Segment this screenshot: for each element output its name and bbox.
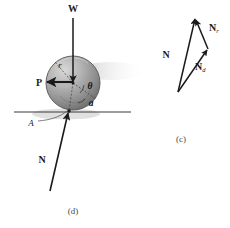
- panel-d-group: W P N r A θ a (d): [14, 3, 148, 216]
- applied-force-vector-label: P: [36, 77, 42, 88]
- resultant-normal-vector-label: N: [162, 49, 170, 60]
- contact-point-label: A: [27, 118, 34, 128]
- physics-figure: W P N r A θ a (d) N Nr: [0, 0, 230, 228]
- subfigure-label-c: (c): [176, 134, 186, 144]
- normal-r-label-subscript: r: [216, 27, 219, 34]
- normal-force-vector-label: N: [38, 154, 46, 165]
- ground-shadow: [32, 109, 100, 120]
- figure-canvas: W P N r A θ a (d) N Nr: [0, 0, 230, 228]
- normal-r-component-vector: [196, 20, 208, 49]
- resultant-normal-label-main: N: [162, 49, 170, 60]
- normal-r-component-vector-label: Nr: [209, 22, 219, 34]
- resultant-normal-vector: [178, 19, 195, 92]
- subfigure-label-d: (d): [68, 206, 79, 216]
- weight-vector-label: W: [68, 3, 78, 14]
- radius-label: r: [58, 60, 62, 70]
- panel-c-group: N Nr Nd (c): [162, 19, 219, 144]
- normal-d-label-subscript: d: [202, 66, 206, 73]
- contact-point-dot: [67, 109, 71, 113]
- alpha-angle-label: a: [89, 98, 94, 108]
- normal-force-vector: [50, 113, 68, 191]
- normal-d-component-vector-label: Nd: [195, 61, 206, 73]
- theta-angle-label: θ: [88, 81, 93, 91]
